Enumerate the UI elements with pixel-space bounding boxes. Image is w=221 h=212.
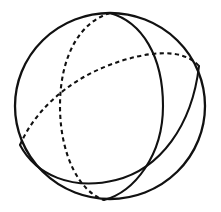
sphere-diagram [0, 0, 221, 212]
figure-root [0, 0, 221, 212]
